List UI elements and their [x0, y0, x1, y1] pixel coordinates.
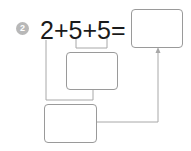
final-sum-box[interactable] — [44, 104, 97, 143]
problem-number-badge: 2 — [16, 22, 29, 35]
intermediate-box[interactable] — [66, 52, 118, 90]
equation: 2+5+5= — [40, 16, 126, 44]
answer-box[interactable] — [131, 9, 183, 48]
